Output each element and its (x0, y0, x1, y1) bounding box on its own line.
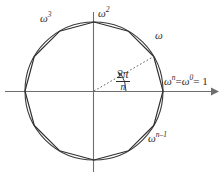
label-omega-zero-base: ω (182, 75, 190, 87)
angle-fraction-numerator: 2π (116, 69, 130, 81)
label-omega-n-equals-sign-2: = 1 (193, 75, 207, 87)
label-omega-n-equals-one: ωn=ω0= 1 (164, 76, 208, 87)
label-omega-cubed-base: ω (40, 12, 48, 24)
angle-fraction-denominator: n (116, 82, 130, 92)
figure-canvas (0, 0, 224, 184)
real-axis (5, 88, 219, 96)
label-omega-n-minus-1: ωn–1 (148, 133, 167, 144)
angle-fraction-label: 2π n (116, 69, 130, 92)
label-omega-squared-exponent: 2 (106, 5, 110, 14)
label-omega-n-minus-1-base: ω (148, 132, 156, 144)
label-omega-n-minus-1-exponent: n–1 (156, 130, 167, 139)
roots-of-unity-figure: ω3 ω2 ω ωn–1 ωn=ω0= 1 2π n (0, 0, 224, 184)
label-omega-base: ω (155, 29, 163, 41)
label-omega-cubed-exponent: 3 (48, 10, 52, 19)
real-axis-arrowhead (211, 88, 219, 96)
label-omega: ω (155, 30, 163, 41)
label-omega-squared: ω2 (98, 8, 110, 19)
label-omega-n-base: ω (164, 75, 172, 87)
label-omega-squared-base: ω (98, 7, 106, 19)
label-omega-cubed: ω3 (40, 13, 52, 24)
